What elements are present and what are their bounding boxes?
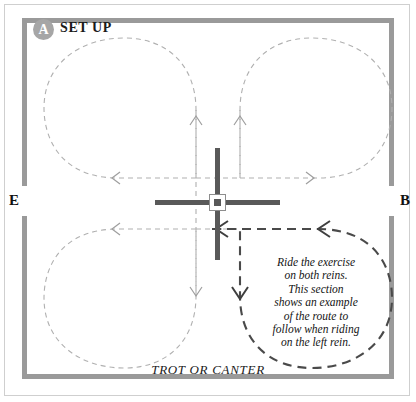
note-line: of the route to <box>252 310 380 323</box>
arena-marker-e: E <box>9 192 19 209</box>
section-badge-a: A <box>33 19 54 40</box>
note-line: shows an example <box>252 296 380 309</box>
bottom-left-loop <box>44 229 196 368</box>
note-line: on the left rein. <box>252 336 380 349</box>
instruction-note: Ride the exercise on both reins. This se… <box>252 256 380 350</box>
centre-marker-nub <box>214 199 221 206</box>
exercise-diagram-page: A SET UP E B Ride the exercise on both r… <box>0 0 416 402</box>
note-line: This section <box>252 283 380 296</box>
page-title: SET UP <box>60 20 112 36</box>
note-line: follow when riding <box>252 323 380 336</box>
arena-marker-b: B <box>400 192 410 209</box>
note-line: on both reins. <box>252 269 380 282</box>
gait-caption: TROT OR CANTER <box>0 362 416 378</box>
top-right-loop <box>240 38 392 178</box>
note-line: Ride the exercise <box>252 256 380 269</box>
top-left-loop <box>44 38 196 178</box>
